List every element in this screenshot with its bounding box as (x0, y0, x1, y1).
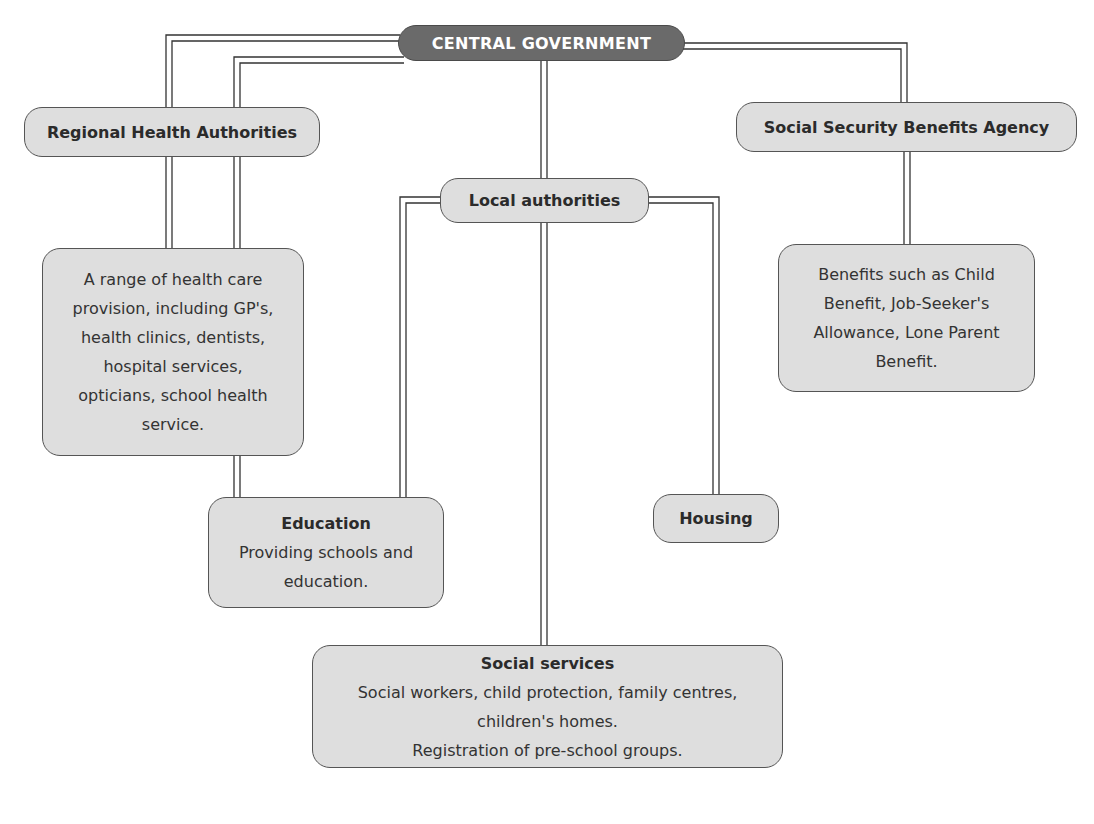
connector-central-regional (166, 35, 400, 108)
text-line: Benefit. (875, 347, 937, 376)
node-title: Social services (481, 649, 614, 678)
node-label: CENTRAL GOVERNMENT (432, 34, 651, 53)
node-health-provision: A range of health care provision, includ… (42, 248, 304, 456)
text-line: Benefit, Job-Seeker's (824, 289, 989, 318)
text-line: health clinics, dentists, (81, 323, 265, 352)
node-central-government: CENTRAL GOVERNMENT (398, 25, 685, 61)
text-line: education. (284, 567, 368, 596)
text-line: hospital services, (103, 352, 242, 381)
node-benefits: Benefits such as Child Benefit, Job-Seek… (778, 244, 1035, 392)
node-local-authorities: Local authorities (440, 178, 649, 223)
node-housing: Housing (653, 494, 779, 543)
text-line: Allowance, Lone Parent (813, 318, 999, 347)
node-social-services: Social services Social workers, child pr… (312, 645, 783, 768)
node-title: Education (281, 509, 371, 538)
text-line: Social workers, child protection, family… (358, 678, 738, 707)
text-line: A range of health care (84, 265, 263, 294)
node-label: Local authorities (469, 191, 621, 210)
node-social-security-benefits-agency: Social Security Benefits Agency (736, 102, 1077, 152)
text-line: opticians, school health (78, 381, 267, 410)
text-line: Benefits such as Child (818, 260, 995, 289)
text-line: provision, including GP's, (73, 294, 274, 323)
node-label: Social Security Benefits Agency (764, 118, 1050, 137)
connector-local-housing (648, 197, 719, 495)
text-line: Registration of pre-school groups. (412, 736, 682, 765)
text-line: service. (142, 410, 204, 439)
node-label: Housing (679, 509, 753, 528)
connector-central-ssba (683, 43, 907, 103)
text-line: Providing schools and (239, 538, 413, 567)
node-regional-health-authorities: Regional Health Authorities (24, 107, 320, 157)
node-education: Education Providing schools and educatio… (208, 497, 444, 608)
text-line: children's homes. (477, 707, 618, 736)
node-label: Regional Health Authorities (47, 123, 297, 142)
